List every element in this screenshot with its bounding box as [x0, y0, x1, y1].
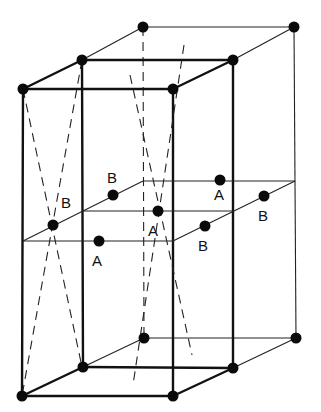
atom-corner: [228, 363, 239, 374]
atom-corner: [78, 362, 89, 373]
atom-site-b: [108, 190, 119, 201]
atom-site-b: [48, 220, 59, 231]
label-a: A: [92, 252, 102, 269]
label-a: A: [148, 222, 158, 239]
atom-corner: [18, 84, 29, 95]
atom-corner: [17, 391, 28, 402]
atom-corner: [168, 391, 179, 402]
label-a: A: [214, 186, 224, 203]
atom-corner: [168, 84, 179, 95]
atom-site-b: [259, 191, 270, 202]
atom-site-a: [153, 206, 164, 217]
atom-corner: [291, 333, 302, 344]
atom-site-a: [94, 236, 105, 247]
dashed-diagonals: [22, 45, 192, 396]
atom-site-a: [215, 175, 226, 186]
label-b: B: [107, 169, 117, 186]
atom-corner: [138, 22, 149, 33]
atom-corner: [139, 333, 150, 344]
label-b: B: [61, 194, 71, 211]
label-b: B: [258, 207, 268, 224]
crystal-structure-diagram: B B A A A B B: [0, 0, 321, 412]
site-labels: B B A A A B B: [61, 169, 268, 269]
label-b: B: [198, 237, 208, 254]
atom-corner: [77, 55, 88, 66]
atom-corner: [289, 22, 300, 33]
atom-site-b: [200, 221, 211, 232]
atom-corner: [228, 55, 239, 66]
